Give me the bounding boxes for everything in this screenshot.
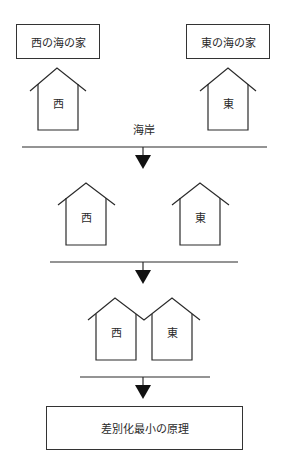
label-west-text: 西の海の家: [31, 34, 86, 50]
conclusion-text: 差別化最小の原理: [101, 420, 189, 436]
house-west-stage3-label: 西: [111, 328, 122, 339]
house-east-stage1-label: 東: [223, 99, 234, 110]
house-west-stage1-label: 西: [53, 99, 64, 110]
label-east-text: 東の海の家: [201, 34, 256, 50]
conclusion-box: 差別化最小の原理: [46, 406, 243, 450]
arrow-down-icon: [135, 270, 151, 284]
houses-adjacent-stage3-icon: [88, 298, 200, 360]
arrow-down-icon: [135, 155, 151, 169]
arrow-down-icon: [135, 385, 151, 399]
diagram-canvas: [0, 0, 283, 473]
house-east-stage2-label: 東: [195, 213, 206, 224]
label-box-east: 東の海の家: [186, 24, 270, 59]
house-west-stage2-label: 西: [81, 213, 92, 224]
label-box-west: 西の海の家: [16, 24, 100, 59]
coast-label: 海岸: [133, 125, 155, 136]
house-east-stage3-label: 東: [167, 328, 178, 339]
